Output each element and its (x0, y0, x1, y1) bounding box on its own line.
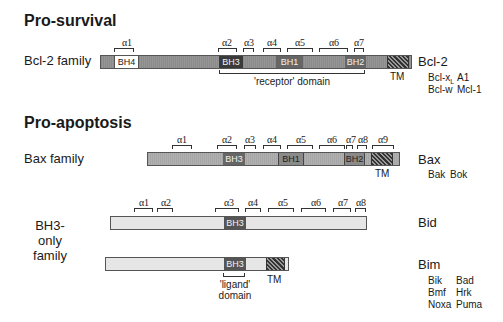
helix-label: α6 (327, 134, 337, 145)
bax-protein-bar: BH3 BH1 BH2 (147, 152, 400, 166)
member-bcl-w: Bcl-w (428, 84, 452, 95)
bh3only-label-line1: BH3-only (25, 218, 75, 248)
helix-bracket (244, 145, 256, 149)
helix-bracket (268, 208, 294, 212)
member-bmf: Bmf (428, 287, 446, 298)
tm-label: TM (267, 274, 281, 285)
helix-bracket (217, 145, 237, 149)
section-title-pro-apoptosis: Pro-apoptosis (24, 114, 132, 132)
helix-label: α4 (248, 197, 258, 208)
helix-bracket (357, 145, 367, 149)
helix-bracket (301, 208, 326, 212)
helix-label: α2 (161, 197, 171, 208)
helix-bracket (157, 208, 173, 212)
bh3only-label-line2: family (25, 248, 75, 263)
helix-label: α2 (222, 134, 232, 145)
helix-label: α8 (356, 197, 366, 208)
helix-bracket (319, 145, 345, 149)
helix-label: α7 (346, 134, 356, 145)
member-bak: Bak (428, 169, 445, 180)
helix-bracket (243, 48, 254, 52)
helix-bracket (245, 208, 261, 212)
helix-bracket (355, 208, 366, 212)
bh3-domain: BH3 (223, 153, 245, 165)
helix-label: α7 (354, 37, 364, 48)
tm-label: TM (375, 168, 389, 179)
bcl2-protein-bar: BH4 BH3 BH1 BH2 (100, 55, 412, 69)
bim-protein-bar: BH3 (105, 257, 289, 271)
ligand-label-line2: domain (217, 290, 253, 301)
helix-label: α2 (222, 37, 232, 48)
bh2-domain: BH2 (345, 56, 366, 68)
bcl2-name: Bcl-2 (418, 54, 448, 69)
helix-label: α6 (329, 37, 339, 48)
helix-label: α5 (296, 134, 306, 145)
helix-label: α5 (278, 197, 288, 208)
bid-name: Bid (418, 215, 437, 230)
helix-bracket (372, 145, 394, 149)
bax-name: Bax (418, 152, 440, 167)
helix-bracket (215, 208, 239, 212)
member-puma: Puma (456, 299, 482, 310)
helix-label: α3 (244, 37, 254, 48)
tm-label: TM (390, 71, 404, 82)
helix-bracket (263, 145, 281, 149)
bh1-domain: BH1 (276, 56, 303, 68)
member-hrk: Hrk (456, 287, 472, 298)
helix-label: α1 (177, 134, 187, 145)
helix-bracket (319, 48, 348, 52)
helix-label: α3 (245, 134, 255, 145)
bh3-domain: BH3 (219, 56, 243, 68)
ligand-bracket (223, 273, 245, 277)
bh3-domain: BH3 (224, 258, 246, 270)
helix-label: α6 (311, 197, 321, 208)
helix-label: α3 (224, 197, 234, 208)
tm-domain (371, 153, 393, 165)
helix-bracket (333, 208, 351, 212)
receptor-domain-label: 'receptor' domain (254, 76, 330, 87)
bh2-domain: BH2 (344, 153, 365, 165)
tm-domain (387, 56, 409, 68)
helix-label: α5 (295, 37, 305, 48)
ligand-domain-label: 'ligand' domain (217, 279, 253, 301)
helix-label: α4 (267, 134, 277, 145)
member-bik: Bik (428, 275, 442, 286)
helix-bracket (287, 48, 313, 52)
bh1-domain: BH1 (278, 153, 304, 165)
bcl2-family-label: Bcl-2 family (24, 53, 91, 68)
member-bad: Bad (456, 275, 474, 286)
bim-name: Bim (418, 257, 440, 272)
helix-label: α7 (338, 197, 348, 208)
ligand-label-line1: 'ligand' (217, 279, 253, 290)
bax-family-label: Bax family (24, 151, 84, 166)
helix-bracket (263, 48, 281, 52)
helix-bracket (346, 145, 353, 149)
bh3-domain: BH3 (224, 217, 246, 229)
bh3only-family-label: BH3-only family (25, 218, 75, 263)
bh4-domain: BH4 (114, 56, 139, 68)
helix-bracket (354, 48, 364, 52)
section-title-pro-survival: Pro-survival (24, 12, 116, 30)
helix-label: α1 (139, 197, 149, 208)
receptor-bracket (219, 70, 365, 74)
helix-bracket (287, 145, 313, 149)
helix-bracket (134, 208, 153, 212)
helix-bracket (114, 48, 134, 52)
member-mcl-1: Mcl-1 (457, 84, 481, 95)
bid-protein-bar: BH3 (110, 216, 367, 230)
helix-label: α4 (267, 37, 277, 48)
helix-label: α8 (358, 134, 368, 145)
member-a1: A1 (457, 72, 469, 83)
helix-bracket (172, 145, 192, 149)
helix-bracket (218, 48, 237, 52)
helix-label: α9 (378, 134, 388, 145)
tm-domain (266, 258, 285, 270)
member-bok: Bok (450, 169, 467, 180)
member-noxa: Noxa (428, 299, 451, 310)
helix-label: α1 (122, 37, 132, 48)
